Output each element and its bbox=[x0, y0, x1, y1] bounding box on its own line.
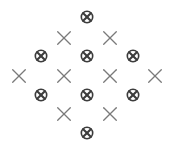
circled-x-marker bbox=[81, 127, 94, 140]
circled-x-marker bbox=[35, 50, 48, 63]
circled-x-marker bbox=[35, 89, 48, 102]
circled-x-marker bbox=[81, 50, 94, 63]
plain-x-marker bbox=[12, 69, 27, 84]
plain-x-marker bbox=[57, 69, 72, 84]
plain-x-marker bbox=[57, 107, 72, 122]
lattice-diagram-canvas bbox=[0, 0, 174, 151]
plain-x-marker bbox=[103, 31, 118, 46]
plain-x-marker bbox=[57, 31, 72, 46]
plain-x-marker bbox=[103, 69, 118, 84]
circled-x-marker bbox=[81, 89, 94, 102]
circled-x-marker bbox=[127, 50, 140, 63]
plain-x-marker bbox=[103, 107, 118, 122]
circled-x-marker bbox=[127, 89, 140, 102]
plain-x-marker bbox=[148, 69, 163, 84]
circled-x-marker bbox=[81, 11, 94, 24]
